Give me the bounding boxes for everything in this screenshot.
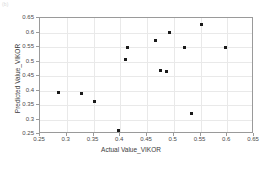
x-tick-label: 0.55 bbox=[194, 136, 206, 142]
data-point bbox=[124, 58, 127, 61]
data-point bbox=[165, 70, 168, 73]
x-tick-label: 0.65 bbox=[247, 136, 259, 142]
gridline-vertical bbox=[174, 18, 175, 132]
gridline-horizontal bbox=[40, 76, 252, 77]
y-tick-mark bbox=[36, 133, 39, 134]
y-tick-mark bbox=[36, 17, 39, 18]
y-tick-label: 0.65 bbox=[22, 14, 34, 20]
gridline-horizontal bbox=[40, 91, 252, 92]
x-axis-label: Actual Value_VIKOR bbox=[0, 146, 262, 153]
panel-label: (b) bbox=[2, 1, 9, 7]
data-point bbox=[168, 31, 171, 34]
gridline-vertical bbox=[94, 18, 95, 132]
y-tick-label: 0.4 bbox=[26, 87, 34, 93]
data-point bbox=[117, 129, 120, 132]
gridline-horizontal bbox=[40, 120, 252, 121]
x-tick-label: 0.25 bbox=[33, 136, 45, 142]
y-tick-mark bbox=[36, 46, 39, 47]
data-point bbox=[57, 91, 60, 94]
y-tick-label: 0.35 bbox=[22, 101, 34, 107]
y-tick-label: 0.6 bbox=[26, 29, 34, 35]
plot-area bbox=[39, 17, 253, 133]
data-point bbox=[93, 100, 96, 103]
y-tick-label: 0.25 bbox=[22, 130, 34, 136]
y-tick-mark bbox=[36, 75, 39, 76]
y-tick-mark bbox=[36, 119, 39, 120]
gridline-vertical bbox=[120, 18, 121, 132]
data-point bbox=[154, 39, 157, 42]
x-tick-label: 0.35 bbox=[87, 136, 99, 142]
scatter-chart-figure: (b) 0.250.30.350.40.450.50.550.60.65 0.2… bbox=[0, 0, 262, 172]
x-tick-label: 0.3 bbox=[62, 136, 70, 142]
x-tick-label: 0.4 bbox=[115, 136, 123, 142]
gridline-vertical bbox=[147, 18, 148, 132]
y-tick-mark bbox=[36, 90, 39, 91]
gridline-horizontal bbox=[40, 47, 252, 48]
data-point bbox=[159, 69, 162, 72]
y-tick-label: 0.45 bbox=[22, 72, 34, 78]
y-tick-mark bbox=[36, 61, 39, 62]
x-tick-label: 0.45 bbox=[140, 136, 152, 142]
y-tick-mark bbox=[36, 32, 39, 33]
y-tick-label: 0.5 bbox=[26, 58, 34, 64]
y-tick-label: 0.3 bbox=[26, 116, 34, 122]
gridline-vertical bbox=[67, 18, 68, 132]
data-point bbox=[200, 23, 203, 26]
y-tick-mark bbox=[36, 104, 39, 105]
gridline-vertical bbox=[227, 18, 228, 132]
gridline-vertical bbox=[201, 18, 202, 132]
data-point bbox=[224, 46, 227, 49]
data-point bbox=[80, 92, 83, 95]
gridline-horizontal bbox=[40, 105, 252, 106]
y-tick-label: 0.55 bbox=[22, 43, 34, 49]
gridline-horizontal bbox=[40, 33, 252, 34]
gridline-horizontal bbox=[40, 62, 252, 63]
data-point bbox=[183, 46, 186, 49]
data-point bbox=[190, 112, 193, 115]
y-axis-label: Predicted Value_VIKOR bbox=[14, 34, 21, 124]
x-tick-label: 0.5 bbox=[169, 136, 177, 142]
data-point bbox=[126, 46, 129, 49]
x-tick-label: 0.6 bbox=[222, 136, 230, 142]
